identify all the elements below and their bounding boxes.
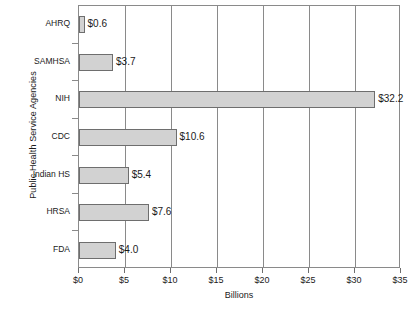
y-axis-tick xyxy=(72,80,78,81)
gridline-25 xyxy=(309,6,310,267)
category-label-cdc: CDC xyxy=(0,128,74,145)
category-label-ahrq: AHRQ xyxy=(0,15,74,32)
y-axis-tick xyxy=(72,155,78,156)
bar-hrsa xyxy=(79,204,149,221)
bar-value-label-nih: $32.2 xyxy=(378,90,403,107)
x-axis-tick-label: $35 xyxy=(380,275,414,285)
y-axis-tick xyxy=(72,118,78,119)
x-axis-tick xyxy=(354,268,355,273)
category-label-fda: FDA xyxy=(0,241,74,258)
x-axis-tick-label: $25 xyxy=(288,275,328,285)
x-axis-tick xyxy=(216,268,217,273)
x-axis-title: Billions xyxy=(78,290,400,300)
category-label-indian-hs: Indian HS xyxy=(0,166,74,183)
x-axis-tick-label: $20 xyxy=(242,275,282,285)
category-label-hrsa: HRSA xyxy=(0,203,74,220)
bar-value-label-fda: $4.0 xyxy=(119,241,138,258)
bar-chart-figure: Public Health Service Agencies Billions … xyxy=(0,0,414,309)
gridline-15 xyxy=(217,6,218,267)
bar-value-label-samhsa: $3.7 xyxy=(116,53,135,70)
bar-value-label-hrsa: $7.6 xyxy=(152,203,171,220)
y-axis-tick xyxy=(72,230,78,231)
bar-fda xyxy=(79,242,116,259)
x-axis-tick-label: $15 xyxy=(196,275,236,285)
bar-value-label-ahrq: $0.6 xyxy=(88,15,107,32)
gridline-20 xyxy=(263,6,264,267)
gridline-30 xyxy=(355,6,356,267)
bar-cdc xyxy=(79,129,177,146)
bar-samhsa xyxy=(79,54,113,71)
bar-value-label-indian-hs: $5.4 xyxy=(132,166,151,183)
x-axis-tick xyxy=(78,268,79,273)
y-axis-tick xyxy=(72,43,78,44)
category-label-samhsa: SAMHSA xyxy=(0,53,74,70)
plot-area xyxy=(78,5,400,268)
bar-indian-hs xyxy=(79,167,129,184)
x-axis-tick xyxy=(400,268,401,273)
x-axis-tick-label: $30 xyxy=(334,275,374,285)
x-axis-tick xyxy=(262,268,263,273)
bar-ahrq xyxy=(79,16,85,33)
x-axis-tick xyxy=(124,268,125,273)
x-axis-tick-label: $5 xyxy=(104,275,144,285)
bar-nih xyxy=(79,91,375,108)
category-label-nih: NIH xyxy=(0,90,74,107)
x-axis-tick xyxy=(170,268,171,273)
x-axis-tick-label: $0 xyxy=(58,275,98,285)
x-axis-tick xyxy=(308,268,309,273)
x-axis-tick-label: $10 xyxy=(150,275,190,285)
y-axis-tick xyxy=(72,193,78,194)
bar-value-label-cdc: $10.6 xyxy=(180,128,205,145)
